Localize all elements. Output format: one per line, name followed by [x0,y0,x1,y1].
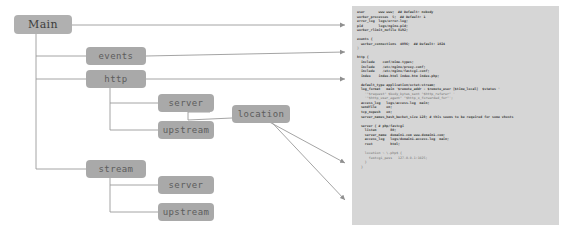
code-line: } [357,165,556,170]
node-stream[interactable]: stream [86,160,146,178]
node-main-label: Main [28,19,58,30]
node-http[interactable]: http [86,70,146,88]
node-http-upstream[interactable]: upstream [158,121,214,139]
wire-location-to-server-block [262,118,345,163]
node-events-label: events [99,52,134,61]
node-http-server[interactable]: server [158,94,214,112]
nginx-config-panel: user www www; ## Default: nobodyworker_p… [352,6,559,225]
wire-events-to-code [146,52,345,56]
node-http-upstream-label: upstream [163,126,210,135]
node-stream-label: stream [99,165,134,174]
node-http-server-label: server [169,99,204,108]
node-stream-server-label: server [169,181,204,190]
diagram-canvas: Main events http server upstream locatio… [0,0,563,237]
code-lines: user www www; ## Default: nobodyworker_p… [357,10,556,169]
node-location[interactable]: location [232,105,290,123]
node-location-label: location [238,110,285,119]
node-main[interactable]: Main [14,15,72,34]
node-stream-upstream-label: upstream [163,208,210,217]
node-stream-server[interactable]: server [158,176,214,194]
node-events[interactable]: events [86,47,146,65]
node-stream-upstream[interactable]: upstream [158,203,214,221]
wire-server-location-b [188,112,232,120]
wire-location-to-location-block [262,112,345,200]
node-http-label: http [104,75,127,84]
